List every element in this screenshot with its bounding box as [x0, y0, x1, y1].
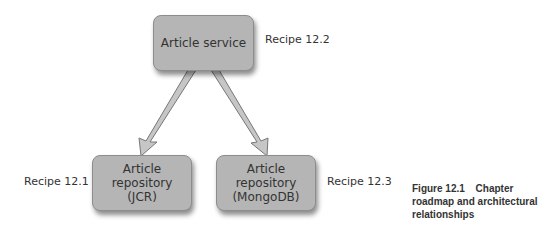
node-label: Article service [161, 36, 246, 50]
recipe-label-12-2: Recipe 12.2 [265, 33, 330, 46]
node-label-line: repository [112, 176, 173, 190]
node-label-line: Article [232, 162, 299, 176]
node-label-line: repository [232, 176, 299, 190]
node-article-repository-mongodb: Article repository (MongoDB) [216, 155, 316, 211]
recipe-label-12-1: Recipe 12.1 [24, 175, 89, 188]
node-article-repository-jcr: Article repository (JCR) [92, 155, 192, 211]
recipe-label-12-3: Recipe 12.3 [327, 175, 392, 188]
arrow-service-to-mongodb [211, 70, 268, 156]
node-article-service: Article service [153, 15, 254, 71]
figure-number: Figure 12.1 [412, 183, 465, 194]
figure-caption: Figure 12.1 Chapter roadmap and architec… [412, 182, 538, 221]
arrow-service-to-jcr [139, 70, 196, 156]
node-label-line: (JCR) [112, 190, 173, 204]
node-label-line: (MongoDB) [232, 190, 299, 204]
node-label-line: Article [112, 162, 173, 176]
